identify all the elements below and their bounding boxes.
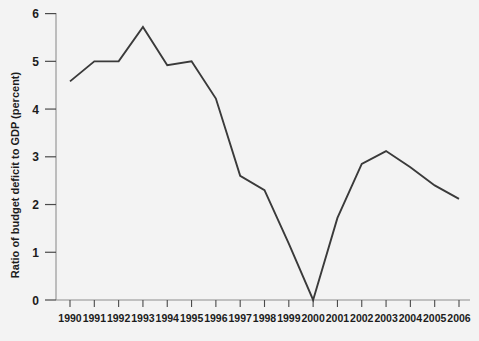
y-tick-label: 2 <box>32 198 39 212</box>
x-tick-label: 1995 <box>180 312 204 324</box>
x-tick-label: 1990 <box>58 312 82 324</box>
x-tick-label: 1998 <box>253 312 277 324</box>
chart-background <box>0 0 479 341</box>
y-axis-title: Ratio of budget deficit to GDP (percent) <box>9 71 21 278</box>
x-tick-label: 2000 <box>301 312 325 324</box>
y-tick-label: 6 <box>32 7 39 21</box>
x-tick-label: 1997 <box>229 312 253 324</box>
x-tick-label: 2005 <box>423 312 447 324</box>
x-tick-label: 1991 <box>83 312 107 324</box>
y-tick-label: 4 <box>32 103 39 117</box>
x-tick-label: 1999 <box>277 312 301 324</box>
x-tick-label: 2003 <box>374 312 398 324</box>
y-tick-label: 3 <box>32 150 39 164</box>
x-tick-label: 1994 <box>156 312 180 324</box>
y-tick-label: 5 <box>32 55 39 69</box>
x-tick-label: 2002 <box>350 312 374 324</box>
x-tick-label: 2001 <box>326 312 350 324</box>
x-tick-label: 2004 <box>399 312 423 324</box>
y-tick-label: 0 <box>32 294 39 308</box>
y-tick-label: 1 <box>32 246 39 260</box>
budget-deficit-line-chart: Ratio of budget deficit to GDP (percent)… <box>0 0 479 341</box>
x-tick-label: 1993 <box>131 312 155 324</box>
chart-canvas: Ratio of budget deficit to GDP (percent)… <box>0 0 479 341</box>
x-tick-label: 1996 <box>204 312 228 324</box>
x-tick-label: 2006 <box>447 312 471 324</box>
x-tick-label: 1992 <box>107 312 131 324</box>
